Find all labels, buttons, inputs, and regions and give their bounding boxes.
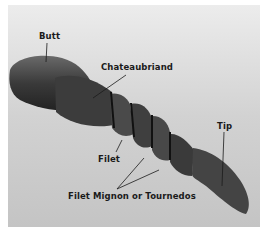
chateaubriand-label: Chateaubriand: [101, 62, 173, 72]
butt-label: Butt: [39, 31, 60, 41]
filet-mignon-label: Filet Mignon or Tournedos: [68, 191, 196, 201]
filet-label: Filet: [98, 154, 120, 164]
tip-label: Tip: [217, 121, 232, 131]
